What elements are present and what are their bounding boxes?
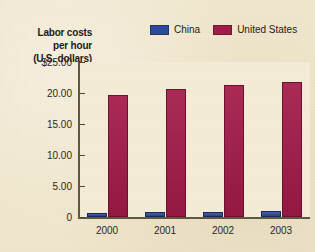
x-axis-line — [78, 217, 310, 219]
y-axis-tick — [80, 217, 85, 218]
legend-swatch-united-states — [213, 25, 232, 35]
y-axis-title-line-1: Labor costs — [6, 26, 92, 39]
y-axis-tick-label: 10.00 — [24, 150, 72, 161]
bar-united-states-2002 — [224, 85, 244, 217]
bar-china-2001 — [145, 212, 165, 217]
bar-united-states-2000 — [108, 95, 128, 217]
legend-swatch-china — [150, 25, 169, 35]
legend-label-united-states: United States — [237, 24, 297, 35]
y-axis-tick-label: 5.00 — [24, 181, 72, 192]
chart-legend: China United States — [150, 24, 297, 35]
bar-china-2000 — [87, 213, 107, 217]
y-axis-tick-label: 0 — [24, 212, 72, 223]
x-axis-label-2003: 2003 — [270, 225, 292, 236]
y-axis-tick-label: 20.00 — [24, 88, 72, 99]
x-axis-label-2001: 2001 — [154, 225, 176, 236]
bar-chart: Labor costs per hour (U.S. dollars) Chin… — [0, 0, 315, 252]
y-axis-tick — [80, 62, 85, 63]
bar-china-2003 — [261, 211, 281, 218]
legend-item-united-states: United States — [213, 24, 297, 35]
plot-area: $25.0020.0015.0010.005.000 2000200120022… — [78, 62, 310, 219]
y-axis-tick — [80, 93, 85, 94]
legend-label-china: China — [174, 24, 200, 35]
bar-united-states-2003 — [282, 82, 302, 217]
x-axis-label-2000: 2000 — [96, 225, 118, 236]
y-axis-tick-label: $25.00 — [24, 57, 72, 68]
x-axis-label-2002: 2002 — [212, 225, 234, 236]
y-axis-title-line-2: per hour — [6, 39, 92, 52]
y-axis-tick — [80, 124, 85, 125]
legend-item-china: China — [150, 24, 200, 35]
bar-china-2002 — [203, 212, 223, 217]
y-axis-tick — [80, 155, 85, 156]
y-axis-tick-label: 15.00 — [24, 119, 72, 130]
y-axis-tick — [80, 186, 85, 187]
y-axis-line — [78, 62, 80, 219]
bar-united-states-2001 — [166, 89, 186, 217]
